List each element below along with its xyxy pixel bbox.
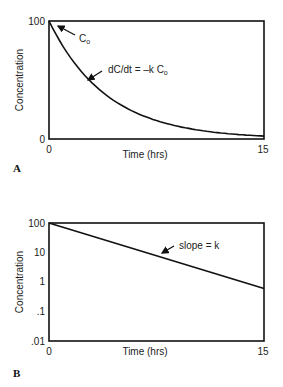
y-tick-10: 10 — [34, 247, 46, 258]
log-decay-line — [49, 223, 264, 289]
panel-label-a: A — [13, 162, 21, 174]
figure: 100 0 0 15 Time (hrs) Concentration Co d… — [0, 0, 283, 387]
y-tick-0.01: .01 — [31, 336, 45, 347]
x-axis-label: Time (hrs) — [122, 346, 167, 357]
annotation-rate: dC/dt = –k Co — [108, 64, 168, 76]
y-tick-1: 1 — [39, 276, 45, 287]
x-axis-label: Time (hrs) — [122, 149, 167, 160]
arrow-rate — [88, 71, 102, 80]
x-tick-15: 15 — [257, 144, 269, 155]
y-tick-0.1: .1 — [37, 306, 46, 317]
y-axis-label: Concentration — [14, 49, 25, 111]
panel-b: 100 10 1 .1 .01 0 15 Time (hrs) Concentr… — [13, 218, 269, 379]
panel-a: 100 0 0 15 Time (hrs) Concentration Co d… — [13, 16, 269, 174]
annotation-slope: slope = k — [179, 240, 220, 251]
annotation-c0: Co — [79, 33, 90, 45]
y-tick-100: 100 — [28, 218, 45, 229]
arrow-slope — [162, 246, 174, 253]
plot-frame-b — [49, 223, 264, 341]
x-tick-0: 0 — [46, 144, 52, 155]
y-axis-label: Concentration — [14, 251, 25, 313]
panel-label-b: B — [13, 367, 21, 379]
x-tick-0: 0 — [46, 346, 52, 357]
x-tick-15: 15 — [257, 346, 269, 357]
y-tick-100: 100 — [28, 16, 45, 27]
y-tick-0: 0 — [39, 134, 45, 145]
arrow-c0 — [58, 26, 75, 35]
